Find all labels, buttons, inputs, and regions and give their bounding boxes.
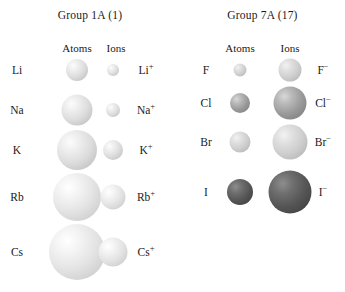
ion-label-li: Li+: [138, 64, 153, 76]
atom-sphere-li: [66, 59, 88, 81]
atom-sphere-i: [227, 179, 253, 205]
atom-sphere-rb: [53, 173, 101, 221]
ion-label-symbol: Li: [138, 64, 148, 76]
ion-sphere-rb: [101, 185, 126, 210]
group-7a-title: Group 7A (17): [180, 9, 345, 21]
ion-label-charge: +: [150, 101, 155, 111]
ion-sphere-li: [107, 64, 119, 76]
ion-label-f: F−: [317, 64, 328, 76]
ion-sphere-i: [269, 171, 312, 214]
atom-label-rb: Rb: [10, 191, 23, 203]
atom-sphere-na: [62, 95, 93, 126]
atom-sphere-cs: [49, 224, 105, 280]
ion-label-symbol: Br: [315, 136, 327, 148]
ion-label-charge: −: [323, 183, 328, 193]
panel-group-7a: Group 7A (17) Atoms Ions FF−ClCl−BrBr−II…: [180, 0, 345, 292]
group-1a-title: Group 1A (1): [0, 9, 180, 21]
ion-label-symbol: Cl: [315, 97, 326, 109]
ion-label-cl: Cl−: [315, 97, 331, 109]
atom-sphere-br: [230, 132, 251, 153]
ion-sphere-cs: [99, 238, 128, 267]
atom-label-cs: Cs: [11, 246, 23, 258]
ion-label-rb: Rb+: [137, 191, 155, 203]
ion-sphere-k: [103, 140, 123, 160]
ion-label-br: Br−: [315, 136, 331, 148]
ion-label-charge: −: [326, 133, 331, 143]
atom-label-k: K: [13, 144, 21, 156]
ion-sphere-f: [279, 59, 302, 82]
ion-label-charge: −: [324, 61, 329, 71]
ion-label-charge: +: [149, 61, 154, 71]
ion-sphere-cl: [274, 87, 307, 120]
ion-label-charge: +: [150, 188, 155, 198]
atom-sphere-cl: [230, 93, 250, 113]
atom-label-br: Br: [200, 136, 212, 148]
ion-label-k: K+: [139, 144, 152, 156]
atom-label-cl: Cl: [201, 97, 212, 109]
ion-label-charge: +: [148, 141, 153, 151]
atom-label-li: Li: [12, 64, 22, 76]
atom-label-f: F: [203, 64, 209, 76]
ion-label-i: I−: [319, 186, 328, 198]
atom-label-i: I: [204, 186, 208, 198]
group-1a-atoms-column-header: Atoms: [62, 42, 91, 54]
group-1a-ions-column-header: Ions: [107, 42, 126, 54]
atomic-ionic-radii-figure: Group 1A (1) Atoms Ions LiLi+NaNa+KK+RbR…: [0, 0, 345, 292]
ion-sphere-br: [273, 125, 308, 160]
group-7a-ions-column-header: Ions: [281, 42, 300, 54]
atom-label-na: Na: [10, 104, 23, 116]
ion-label-charge: +: [150, 243, 155, 253]
atom-sphere-f: [234, 64, 247, 77]
ion-label-symbol: Na: [137, 104, 150, 116]
panel-group-1a: Group 1A (1) Atoms Ions LiLi+NaNa+KK+RbR…: [0, 0, 180, 292]
group-7a-atoms-column-header: Atoms: [225, 42, 254, 54]
ion-label-na: Na+: [137, 104, 155, 116]
ion-label-symbol: Cs: [138, 246, 150, 258]
ion-label-charge: −: [326, 94, 331, 104]
ion-label-symbol: Rb: [137, 191, 150, 203]
atom-sphere-k: [57, 130, 97, 170]
ion-label-cs: Cs+: [138, 246, 155, 258]
ion-sphere-na: [106, 103, 120, 117]
